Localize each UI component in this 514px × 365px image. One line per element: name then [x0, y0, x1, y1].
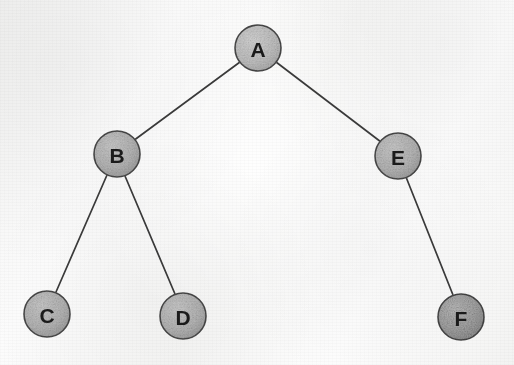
node-label-d: D: [175, 306, 190, 329]
node-label-a: A: [250, 38, 265, 61]
node-label-b: B: [109, 144, 124, 167]
tree-edge-a-b: [133, 62, 240, 141]
binary-tree-diagram: A B E C D F: [0, 0, 514, 365]
tree-edge-e-f: [406, 177, 453, 295]
tree-nodes-group: A B E C D F: [24, 25, 484, 340]
scanned-diagram-page: A B E C D F: [0, 0, 514, 365]
tree-node-d[interactable]: D: [160, 293, 206, 339]
node-label-f: F: [455, 307, 468, 330]
tree-node-b[interactable]: B: [94, 131, 140, 177]
tree-node-a[interactable]: A: [235, 25, 281, 71]
tree-edge-b-c: [56, 175, 107, 292]
tree-node-e[interactable]: E: [375, 133, 421, 179]
tree-node-c[interactable]: C: [24, 291, 70, 337]
node-label-e: E: [391, 146, 405, 169]
node-label-c: C: [39, 304, 54, 327]
tree-edge-b-d: [125, 176, 175, 294]
tree-node-f[interactable]: F: [438, 294, 484, 340]
tree-edge-a-e: [276, 62, 381, 142]
